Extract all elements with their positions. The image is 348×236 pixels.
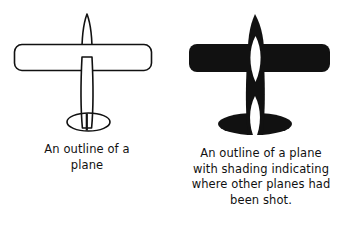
panel-shaded-plane: An outline of a plane with shading indic… — [174, 0, 348, 236]
figure-stage: An outline of a plane — [0, 0, 348, 236]
panel-outline-plane: An outline of a plane — [0, 0, 174, 236]
plane-outline-drawing — [0, 0, 174, 140]
caption-shaded-plane: An outline of a plane with shading indic… — [174, 146, 348, 208]
caption-line: been shot. — [174, 193, 348, 209]
plane-outline-svg — [0, 0, 174, 140]
caption-line: where other planes had — [174, 177, 348, 193]
caption-line: An outline of a — [0, 142, 174, 158]
plane-shaded-drawing — [174, 0, 348, 140]
caption-line: plane — [0, 158, 174, 174]
caption-line: An outline of a plane — [174, 146, 348, 162]
caption-outline-plane: An outline of a plane — [0, 142, 174, 173]
plane-shaded-svg — [174, 0, 348, 140]
caption-line: with shading indicating — [174, 162, 348, 178]
